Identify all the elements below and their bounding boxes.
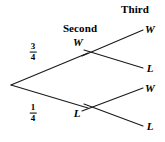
node-label-second-win: W [73,37,83,48]
branch-probability-one-quarter: 1 4 [30,103,37,124]
branch-second-l-to-third-w [82,88,143,111]
branch-second-l-to-third-l [84,104,143,126]
node-label-third-loss-win: W [145,83,155,94]
branch-root-to-second-l [11,85,88,108]
branch-root-to-second-w [11,53,88,85]
branch-second-w-to-third-l [84,50,143,68]
fraction-denominator: 4 [30,114,37,123]
node-label-third-win-loss: L [147,63,154,74]
branch-probability-three-quarters: 3 4 [30,42,37,63]
node-label-second-loss: L [74,108,81,119]
probability-tree-diagram: Second Third W L W L W L 3 4 1 4 [0,0,165,142]
node-label-third-loss-loss: L [147,121,154,132]
stage-header-third: Third [121,4,149,15]
fraction-denominator: 4 [30,53,37,62]
fraction-numerator: 3 [30,42,37,51]
node-label-third-win-win: W [145,24,155,35]
fraction-numerator: 1 [30,103,37,112]
stage-header-second: Second [63,23,97,34]
